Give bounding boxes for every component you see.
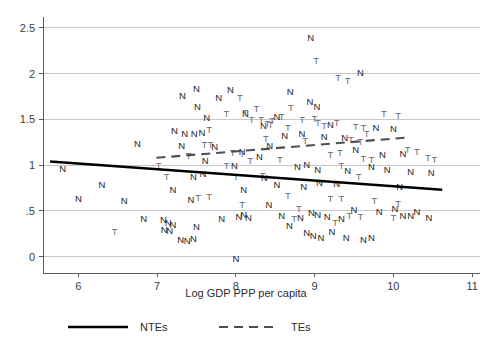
data-marker-ntes: N (390, 123, 397, 134)
data-marker-tes: T (247, 155, 253, 166)
data-marker-ntes: N (414, 206, 421, 217)
data-marker-ntes: N (303, 159, 310, 170)
data-marker-tes: T (353, 121, 359, 132)
data-marker-tes: T (224, 108, 230, 119)
data-marker-ntes: N (215, 92, 222, 103)
data-marker-ntes: N (294, 161, 301, 172)
data-marker-ntes: N (384, 164, 391, 175)
data-marker-ntes: N (273, 179, 280, 190)
data-marker-tes: T (395, 198, 401, 209)
data-marker-tes: T (239, 148, 245, 159)
data-marker-tes: T (164, 171, 170, 182)
data-marker-ntes: N (179, 90, 186, 101)
data-marker-tes: T (414, 146, 420, 157)
data-marker-tes: T (208, 139, 214, 150)
data-marker-tes: T (381, 108, 387, 119)
data-marker-tes: T (332, 217, 338, 228)
data-marker-ntes: N (240, 184, 247, 195)
data-marker-ntes: N (199, 127, 206, 138)
data-marker-tes: T (395, 110, 401, 121)
data-marker-tes: T (258, 114, 264, 125)
data-marker-tes: T (263, 133, 269, 144)
data-marker-tes: T (277, 154, 283, 165)
data-marker-ntes: N (190, 233, 197, 244)
data-marker-ntes: N (306, 96, 313, 107)
data-marker-tes: T (279, 111, 285, 122)
data-marker-ntes: N (376, 206, 383, 217)
data-marker-ntes: N (324, 211, 331, 222)
data-marker-ntes: N (314, 209, 321, 220)
data-marker-ntes: N (287, 86, 294, 97)
y-tick-label: 1.5 (20, 113, 35, 125)
data-marker-tes: T (253, 103, 259, 114)
legend: NTEs TEs (68, 321, 311, 333)
scatter-plot-svg: NNNNNNNNNNNNNNNNNNNNNNNNNNNNNNNNNNNNNNNN… (0, 0, 492, 344)
data-marker-ntes: N (310, 230, 317, 241)
data-marker-ntes: N (140, 213, 147, 224)
data-marker-ntes: N (59, 163, 66, 174)
data-marker-ntes: N (75, 193, 82, 204)
data-marker-ntes: N (407, 210, 414, 221)
data-marker-ntes: N (202, 155, 209, 166)
x-tick-label: 7 (154, 280, 160, 292)
data-marker-ntes: N (425, 212, 432, 223)
data-marker-ntes: N (368, 232, 375, 243)
x-tick-label: 6 (75, 280, 81, 292)
data-marker-ntes: N (407, 166, 414, 177)
data-marker-ntes: N (218, 213, 225, 224)
data-marker-ntes: N (314, 164, 321, 175)
gridlines-group (43, 28, 480, 257)
data-marker-ntes: N (134, 138, 141, 149)
data-marker-tes: T (345, 75, 351, 86)
y-tick-label: 1 (29, 159, 35, 171)
data-marker-tes: T (431, 154, 437, 165)
x-tick-label: 11 (466, 280, 477, 292)
data-marker-ntes: N (194, 101, 201, 112)
data-marker-ntes: N (278, 210, 285, 221)
data-marker-tes: T (339, 193, 345, 204)
data-markers-group: NNNNNNNNNNNNNNNNNNNNNNNNNNNNNNNNNNNNNNNN… (59, 32, 437, 263)
data-marker-tes: T (390, 212, 396, 223)
data-marker-tes: T (335, 72, 341, 83)
data-marker-ntes: N (360, 234, 367, 245)
chart-figure: NNNNNNNNNNNNNNNNNNNNNNNNNNNNNNNNNNNNNNNN… (0, 0, 492, 344)
data-marker-tes: T (202, 139, 208, 150)
data-marker-tes: T (285, 122, 291, 133)
data-marker-tes: T (346, 210, 352, 221)
data-marker-tes: T (112, 226, 118, 237)
data-marker-tes: T (339, 160, 345, 171)
data-marker-ntes: N (193, 221, 200, 232)
data-marker-ntes: N (178, 140, 185, 151)
data-marker-tes: T (368, 154, 374, 165)
data-marker-tes: T (334, 117, 340, 128)
data-marker-tes: T (405, 144, 411, 155)
data-marker-ntes: N (316, 177, 323, 188)
data-marker-ntes: N (245, 212, 252, 223)
data-marker-ntes: N (181, 128, 188, 139)
data-marker-ntes: N (188, 194, 195, 205)
data-marker-ntes: N (171, 125, 178, 136)
data-marker-ntes: N (373, 122, 380, 133)
data-marker-ntes: N (318, 232, 325, 243)
data-marker-tes: T (302, 135, 308, 146)
data-marker-ntes: N (321, 131, 328, 142)
data-marker-tes: T (315, 117, 321, 128)
data-marker-tes: T (327, 193, 333, 204)
data-marker-ntes: N (231, 160, 238, 171)
data-marker-tes: T (361, 153, 367, 164)
data-marker-tes: T (296, 203, 302, 214)
data-marker-tes: T (268, 119, 274, 130)
data-marker-tes: T (313, 55, 319, 66)
data-marker-ntes: N (193, 83, 200, 94)
legend-label-ntes: NTEs (140, 321, 168, 333)
data-marker-ntes: N (191, 128, 198, 139)
data-marker-tes: T (239, 199, 245, 210)
data-marker-ntes: N (256, 151, 263, 162)
data-marker-ntes: N (121, 195, 128, 206)
data-marker-ntes: N (169, 184, 176, 195)
y-tick-label: 2 (29, 68, 35, 80)
data-marker-ntes: N (399, 210, 406, 221)
data-marker-tes: T (299, 114, 305, 125)
data-marker-tes: T (285, 190, 291, 201)
data-marker-tes: T (206, 124, 212, 135)
